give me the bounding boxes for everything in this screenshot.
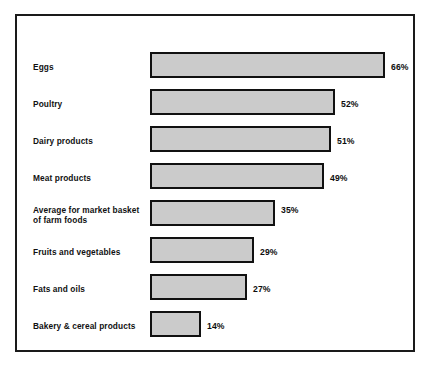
bar-value-label: 51% bbox=[337, 136, 355, 146]
bar bbox=[150, 311, 201, 337]
bar bbox=[150, 163, 324, 189]
bar-row: Average for market basket of farm foods … bbox=[0, 200, 430, 230]
bar bbox=[150, 89, 335, 115]
bar-value-label: 66% bbox=[391, 62, 409, 72]
bar-row: Fruits and vegetables 29% bbox=[0, 237, 430, 267]
bar-value-label: 27% bbox=[253, 284, 271, 294]
category-label: Poultry bbox=[33, 99, 145, 109]
category-label: Dairy products bbox=[33, 136, 145, 146]
bar-value-label: 29% bbox=[260, 247, 278, 257]
category-label: Meat products bbox=[33, 173, 145, 183]
bar bbox=[150, 274, 247, 300]
category-label: Eggs bbox=[33, 62, 145, 72]
category-label: Bakery & cereal products bbox=[33, 321, 145, 331]
bar-row: Bakery & cereal products 14% bbox=[0, 311, 430, 341]
bar-value-label: 52% bbox=[341, 99, 359, 109]
plot-area: Eggs 66% Poultry 52% Dairy products 51% … bbox=[0, 0, 430, 370]
bar-value-label: 35% bbox=[281, 205, 299, 215]
bar-chart: Eggs 66% Poultry 52% Dairy products 51% … bbox=[0, 0, 430, 370]
bar bbox=[150, 52, 385, 78]
bar bbox=[150, 126, 331, 152]
category-label: Average for market basket of farm foods bbox=[33, 205, 145, 225]
bar-row: Eggs 66% bbox=[0, 52, 430, 82]
category-label: Fruits and vegetables bbox=[33, 247, 145, 257]
bar bbox=[150, 200, 275, 226]
bar-row: Dairy products 51% bbox=[0, 126, 430, 156]
bar-value-label: 49% bbox=[330, 173, 348, 183]
bar-value-label: 14% bbox=[207, 321, 225, 331]
bar-row: Meat products 49% bbox=[0, 163, 430, 193]
bar-row: Fats and oils 27% bbox=[0, 274, 430, 304]
bar-row: Poultry 52% bbox=[0, 89, 430, 119]
bar bbox=[150, 237, 254, 263]
category-label: Fats and oils bbox=[33, 284, 145, 294]
